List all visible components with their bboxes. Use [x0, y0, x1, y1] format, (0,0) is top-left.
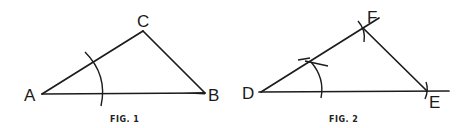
segment-ac — [42, 31, 143, 94]
vertex-label-d: D — [242, 84, 254, 103]
vertex-label-f: F — [367, 8, 377, 27]
vertex-label-a: A — [24, 86, 36, 105]
figure-2: D F E FIG. 2 — [242, 8, 449, 124]
arc-at-a — [85, 52, 103, 106]
vertex-label-e: E — [429, 93, 440, 112]
segment-df — [261, 18, 379, 92]
geometry-diagram: A C B FIG. 1 D F E FIG. 2 — [0, 0, 472, 128]
figure-caption-2: FIG. 2 — [329, 115, 358, 124]
arc-at-d — [311, 62, 322, 98]
vertex-label-c: C — [137, 12, 149, 31]
segment-fe — [363, 28, 427, 91]
vertex-label-b: B — [208, 86, 219, 105]
segment-de — [259, 91, 449, 92]
segment-ab — [42, 93, 205, 94]
segment-cb — [143, 31, 205, 93]
figure-1: A C B FIG. 1 — [24, 12, 219, 124]
figure-caption-1: FIG. 1 — [110, 115, 139, 124]
